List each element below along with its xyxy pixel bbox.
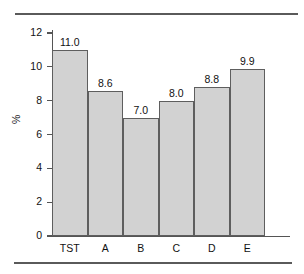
- bar-value-label: 8.0: [153, 87, 201, 99]
- bar: [123, 118, 159, 236]
- y-tick-label: 4: [20, 162, 42, 173]
- y-tick-label: 6: [20, 129, 42, 140]
- y-tick-label: 12: [20, 27, 42, 38]
- x-axis-line: [52, 236, 290, 237]
- y-tick-label: 8: [20, 95, 42, 106]
- plot-area: % 024681012 11.08.67.08.08.89.9 TSTABCDE: [0, 0, 304, 274]
- y-tick-label: 2: [20, 196, 42, 207]
- bar-value-label: 11.0: [46, 36, 94, 48]
- y-axis-title: %: [10, 115, 22, 124]
- x-tick-label: E: [224, 242, 272, 254]
- bar-value-label: 8.8: [188, 73, 236, 85]
- bar: [230, 69, 266, 236]
- bottom-horizontal-rule: [14, 262, 292, 264]
- bar: [194, 87, 230, 236]
- y-tick-label: 0: [20, 230, 42, 241]
- y-tick-mark: [47, 32, 52, 33]
- bar-value-label: 8.6: [82, 77, 130, 89]
- bar: [159, 101, 195, 236]
- bar-value-label: 9.9: [224, 55, 272, 67]
- y-tick-label: 10: [20, 61, 42, 72]
- bar-value-label: 7.0: [117, 104, 165, 116]
- bar-chart-figure: % 024681012 11.08.67.08.08.89.9 TSTABCDE: [0, 0, 304, 274]
